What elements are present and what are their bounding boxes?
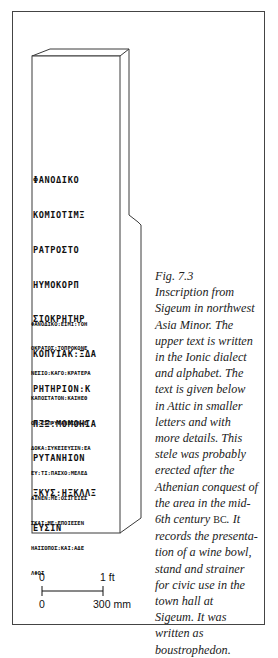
caption-line: in the Ionic dialect [155,349,265,365]
caption-line: town hall at [155,593,265,609]
inscription-line: ΣΚΑΙ:ΜΕ:ΕΠΟΙΕΣΕΝ [31,519,91,527]
caption-line: for civic use in the [155,577,265,593]
caption-line: in Attic in smaller [155,398,265,414]
inscription-line: ΗΑΙΣΟΠΟΣ:ΚΑΙ:ΑΔΕ [31,544,91,552]
figure-number: Fig. 7.3 [155,268,265,284]
scale-metric-end: 300 mm [93,598,131,610]
inscription-line: ΔΟΚΑ:ΣΥΚΕΙΕΥΣΙΝ:ΕΑ [31,444,91,452]
scale-imperial-start: 0 [39,571,45,583]
inscription-line: ΟΝ:ΕΣΠΡΥΤΑΝΕΙΟΝ:Ε [31,419,91,427]
caption-line: Athenian conquest of [155,479,265,495]
inscription-line: ΦΑΝΟΔΙΚΟ:ΕΙΜΙ:ΤΟΗ [31,320,91,328]
caption-line: erected after the [155,462,265,478]
inscription-line: ΗΥΜΟΚΟΡΠ [33,280,97,292]
caption-text: . It [227,512,241,526]
caption-line: the area in the mid- [155,495,265,511]
caption-line: Inscription from [155,284,265,300]
stele-side-face [120,49,141,533]
inscription-line: ΡΑΤΡΟΣΤΟ [33,245,97,257]
era-abbreviation: BC [213,514,226,525]
caption-line: records the presenta- [155,528,265,544]
inscription-lower-attic: ΦΑΝΟΔΙΚΟ:ΕΙΜΙ:ΤΟΗ ΟΚΡΑΤΟΣ:ΤΟΠΡΟΚΟΝΕ ΝΕΣΙ… [31,303,91,585]
scale-metric-start: 0 [39,598,45,610]
inscription-line: ΦΑΝΟΔΙΚΟ [33,175,97,187]
inscription-line: ΚΑΠΟΣΤΑΤΟΝ:ΚΑΙΗΕΘ [31,394,91,402]
caption-line: tion of a wine bowl, [155,544,265,560]
inscription-line: ΝΕΣΙΟ:ΚΑΓΟ:ΚΡΑΤΕΡΑ [31,369,91,377]
inscription-line: ΕΥ:ΤΙ:ΠΑΣΧΟ:ΜΕΛΕΔ [31,469,91,477]
inscription-line: ΟΚΡΑΤΟΣ:ΤΟΠΡΟΚΟΝΕ [31,344,91,352]
inscription-line: ΚΟΜΙΟΤΙΜΞ [33,210,97,222]
caption-line: Sigeum. It was [155,609,265,625]
caption-line: stele was probably [155,446,265,462]
caption-line: Asia Minor. The [155,317,265,333]
caption-line-bc: 6th century BC. It [155,511,265,528]
caption-line: boustrophedon. [155,642,265,658]
caption-line: more details. This [155,430,265,446]
caption-text: 6th century [155,512,213,526]
stele-top-face [32,49,129,56]
caption-line: letters and with [155,414,265,430]
figure-caption: Fig. 7.3 Inscription from Sigeum in nort… [155,268,265,658]
caption-line: upper text is written [155,333,265,349]
caption-line: written as [155,625,265,641]
caption-line: Sigeum in northwest [155,300,265,316]
caption-line: stand and strainer [155,561,265,577]
inscription-line: ΑΙΝΕΝ:ΜΕ:ΟΣΙΓΕΙΕΣ [31,494,91,502]
caption-line: and alphabet. The [155,365,265,381]
scale-imperial-end: 1 ft [100,571,115,583]
caption-line: text is given below [155,381,265,397]
